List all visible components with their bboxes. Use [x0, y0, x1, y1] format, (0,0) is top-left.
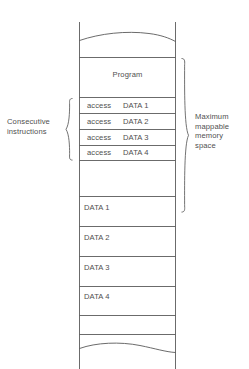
maximum-mappable-line-2: mappable	[195, 122, 229, 131]
data-1-block-label: DATA 1	[84, 203, 164, 213]
access-row-3-target: DATA 3	[123, 133, 175, 143]
memory-map-diagram: Program access DATA 1 access DATA 2 acce…	[0, 0, 249, 369]
access-row-1-target: DATA 1	[123, 101, 175, 111]
consecutive-instructions-line-1: Consecutive	[7, 117, 50, 126]
consecutive-instructions-line-2: instructions	[7, 127, 47, 136]
top-wavy-break-icon	[80, 32, 176, 41]
maximum-mappable-line-4: space	[195, 141, 216, 150]
left-curly-brace-icon	[66, 99, 73, 161]
consecutive-instructions-label: Consecutive instructions	[7, 117, 63, 136]
data-2-block-label: DATA 2	[84, 233, 164, 243]
access-row-2-target: DATA 2	[123, 117, 175, 127]
access-row-4-target: DATA 4	[123, 148, 175, 158]
maximum-mappable-line-3: memory	[195, 131, 223, 140]
data-3-block-label: DATA 3	[84, 263, 164, 273]
bottom-wavy-break-icon	[80, 343, 176, 352]
data-4-block-label: DATA 4	[84, 292, 164, 302]
maximum-mappable-memory-space-label: Maximum mappable memory space	[195, 112, 245, 150]
right-curly-brace-icon	[182, 59, 189, 213]
maximum-mappable-line-1: Maximum	[195, 112, 229, 121]
diagram-linework	[0, 0, 249, 369]
program-section-label: Program	[79, 70, 176, 80]
